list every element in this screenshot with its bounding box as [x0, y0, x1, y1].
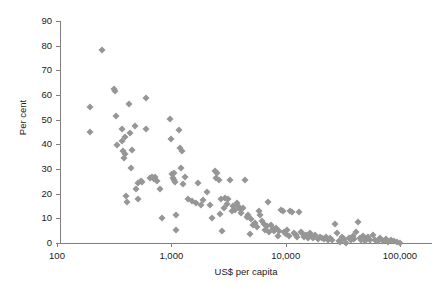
y-axis-tick-label: 80 [4, 41, 52, 51]
data-point-marker [86, 128, 93, 135]
data-point-marker [128, 146, 135, 153]
y-axis-tick-label: 50 [4, 115, 52, 125]
data-point-marker [178, 147, 185, 154]
data-point-marker [156, 186, 163, 193]
data-point-marker [127, 164, 134, 171]
data-point-marker [133, 185, 140, 192]
data-point-marker [142, 94, 149, 101]
data-point-marker [240, 204, 247, 211]
data-point-marker [177, 164, 184, 171]
y-axis-tick-label: 10 [4, 213, 52, 223]
y-axis-tick-label: 20 [4, 189, 52, 199]
data-point-marker [396, 239, 403, 246]
data-point-marker [195, 179, 202, 186]
data-point-marker [173, 227, 180, 234]
x-axis-tick-label: 10,000 [271, 250, 300, 261]
y-axis-tick-label: 70 [4, 65, 52, 75]
y-axis-tick-label: 60 [4, 90, 52, 100]
data-point-marker [226, 176, 233, 183]
data-point-marker [143, 126, 150, 133]
data-point-marker [139, 178, 146, 185]
data-point-marker [118, 125, 125, 132]
data-point-marker [208, 214, 215, 221]
data-point-marker [219, 227, 226, 234]
x-axis-tick-label: 1,000 [159, 250, 183, 261]
x-axis-title: US$ per capita [60, 266, 432, 277]
y-axis-tick-label: 30 [4, 164, 52, 174]
data-point-marker [355, 218, 362, 225]
data-point-marker [172, 211, 179, 218]
data-point-marker [264, 199, 271, 206]
y-axis-tick-label: 90 [4, 16, 52, 26]
data-point-marker [203, 189, 210, 196]
data-point-marker [159, 215, 166, 222]
data-point-marker [131, 122, 138, 129]
data-point-marker [123, 199, 130, 206]
x-axis-tick [171, 243, 172, 247]
data-point-marker [279, 208, 286, 215]
data-point-marker [113, 113, 120, 120]
y-axis-tick-label: 0 [4, 238, 52, 248]
data-point-marker [215, 176, 222, 183]
data-point-marker [253, 224, 260, 231]
scatter-chart: 0102030405060708090 1001,00010,000100,00… [0, 0, 439, 298]
data-point-marker [331, 221, 338, 228]
data-point-marker [214, 169, 221, 176]
data-point-marker [153, 178, 160, 185]
data-point-marker [126, 100, 133, 107]
data-point-marker [167, 116, 174, 123]
data-point-marker [295, 208, 302, 215]
data-point-marker [135, 196, 142, 203]
data-point-marker [98, 46, 105, 53]
plot-area [60, 21, 432, 243]
y-axis-tick-label: 40 [4, 139, 52, 149]
data-point-marker [180, 180, 187, 187]
data-point-marker [175, 126, 182, 133]
data-point-marker [246, 231, 253, 238]
x-axis-tick-label: 100 [49, 250, 65, 261]
data-point-marker [241, 177, 248, 184]
x-axis-tick-label: 100,000 [383, 250, 417, 261]
data-point-marker [87, 103, 94, 110]
x-axis-tick [57, 243, 58, 247]
data-point-marker [168, 135, 175, 142]
x-axis-tick [286, 243, 287, 247]
y-axis-title: Per cent [17, 78, 28, 158]
data-point-marker [206, 201, 213, 208]
